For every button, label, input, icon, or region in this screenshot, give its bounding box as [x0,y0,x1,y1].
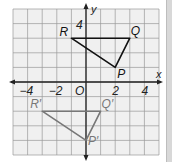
page-edge-divider [166,0,172,162]
y-axis-arrow-down-icon [84,155,89,161]
y-axis-arrow-up-icon [84,3,89,9]
coordinate-plane-figure: xyO−4−2244PQRP′Q′R′ [0,0,172,162]
vertex-label: Q′ [102,97,114,111]
x-axis-arrow-right-icon [157,80,163,85]
coordinate-plane: xyO−4−2244PQRP′Q′R′ [0,0,172,162]
x-axis-arrow-left-icon [9,80,15,85]
x-tick-label: −4 [20,84,34,98]
x-tick-label: −2 [49,84,63,98]
vertex-label: R′ [30,97,42,111]
x-axis-label: x [155,68,162,80]
origin-label: O [75,84,84,98]
vertex-label: P′ [88,134,99,148]
vertex-label: Q [131,24,140,38]
x-tick-label: 4 [141,84,148,98]
y-tick-label: 4 [76,18,83,32]
x-tick-label: 2 [111,84,119,98]
vertex-label: P [117,67,125,81]
vertex-label: R [59,25,68,39]
